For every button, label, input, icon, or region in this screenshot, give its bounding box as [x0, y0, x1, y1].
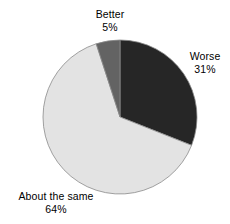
- pie-label-worse-name: Worse: [182, 50, 228, 63]
- pie-label-worse: Worse 31%: [182, 50, 228, 75]
- pie-chart: Better 5% Worse 31% About the same 64%: [0, 0, 230, 224]
- pie-slice-group: [43, 40, 197, 194]
- pie-label-better-value: 5%: [64, 21, 156, 34]
- pie-label-about-the-same: About the same 64%: [6, 190, 106, 215]
- pie-label-worse-value: 31%: [182, 63, 228, 76]
- pie-label-about-the-same-value: 64%: [6, 203, 106, 216]
- pie-label-better-name: Better: [64, 8, 156, 21]
- pie-label-better: Better 5%: [64, 8, 156, 33]
- pie-label-about-the-same-name: About the same: [6, 190, 106, 203]
